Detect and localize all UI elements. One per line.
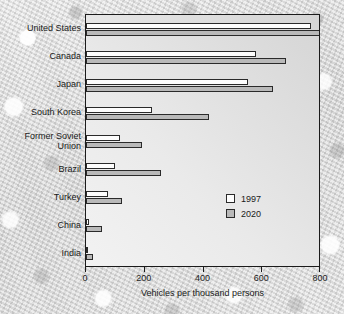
x-tick-400 [203,267,204,272]
x-tick-0 [85,267,86,272]
category-label-canada: Canada [0,51,81,61]
x-tick-label-400: 400 [195,273,210,283]
legend-swatch-2020 [226,209,235,218]
legend-label-2020: 2020 [241,209,261,219]
bar-1997-india [86,247,88,253]
bar-1997-united-states [86,23,311,29]
bar-2020-former-soviet-union [86,142,142,148]
x-axis-title: Vehicles per thousand persons [85,288,320,298]
bar-1997-south-korea [86,107,152,113]
category-label-former-soviet-union: Former Soviet Union [0,131,81,151]
x-axis-ticks [85,267,320,272]
bar-2020-japan [86,86,273,92]
x-tick-label-0: 0 [82,273,87,283]
category-axis-labels: United StatesCanadaJapanSouth KoreaForme… [0,14,81,267]
category-label-china: China [0,220,81,230]
category-label-turkey: Turkey [0,192,81,202]
category-label-brazil: Brazil [0,164,81,174]
bar-2020-china [86,226,102,232]
bar-2020-brazil [86,170,161,176]
legend-entry-1997: 1997 [226,193,261,204]
bar-2020-canada [86,58,286,64]
legend-entry-2020: 2020 [226,208,261,219]
plot-area: 1997 2020 [85,14,320,267]
bar-1997-turkey [86,191,108,197]
bars-layer [86,15,319,266]
bar-1997-brazil [86,163,115,169]
x-tick-200 [144,267,145,272]
category-label-united-states: United States [0,23,81,33]
bar-2020-united-states [86,30,320,36]
x-tick-label-800: 800 [312,273,327,283]
chart-screenshot: United StatesCanadaJapanSouth KoreaForme… [0,0,344,314]
bar-2020-turkey [86,198,122,204]
x-tick-label-200: 200 [136,273,151,283]
x-tick-800 [319,267,320,272]
legend-swatch-1997 [226,194,235,203]
bar-1997-former-soviet-union [86,135,120,141]
x-tick-600 [261,267,262,272]
category-label-south-korea: South Korea [0,107,81,117]
chart-legend: 1997 2020 [226,193,261,223]
category-label-japan: Japan [0,79,81,89]
bar-1997-japan [86,79,248,85]
bar-2020-india [86,254,93,260]
bar-2020-south-korea [86,114,209,120]
legend-label-1997: 1997 [241,194,261,204]
bar-1997-china [86,219,89,225]
x-axis-tick-labels: 0200400600800 [85,273,320,285]
x-tick-label-600: 600 [254,273,269,283]
category-label-india: India [0,248,81,258]
bar-1997-canada [86,51,256,57]
